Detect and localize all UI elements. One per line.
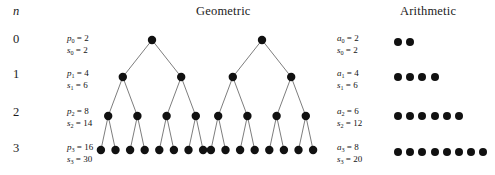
arithmetic-a-line-1: a1 = 4 [337, 68, 359, 80]
tree-node [133, 112, 141, 120]
tree-edge [233, 40, 262, 77]
tree-node [258, 36, 266, 44]
geometric-formula-row-1: p1 = 4 s1 = 6 [67, 68, 89, 91]
arithmetic-dot [394, 112, 402, 120]
arithmetic-a-line-3: a3 = 8 [337, 142, 362, 154]
tree-edge [167, 116, 174, 150]
tree-node [207, 146, 215, 154]
column-header-arithmetic: Arithmetic [400, 4, 456, 19]
column-header-geometric: Geometric [196, 4, 251, 19]
arithmetic-dot [455, 148, 463, 156]
tree-edge [218, 77, 233, 116]
tree-edge [108, 77, 123, 116]
tree-edge [299, 116, 306, 150]
tree-edge [306, 116, 313, 150]
tree-edge [159, 116, 166, 150]
tree-edge [196, 116, 203, 150]
arithmetic-dot [394, 38, 402, 46]
geometric-formula-row-2: p2 = 8 s2 = 14 [67, 106, 92, 129]
tree-edge [218, 116, 225, 150]
arithmetic-dot-row-2 [394, 112, 467, 120]
arithmetic-dot-row-0 [394, 38, 418, 46]
tree-node [126, 146, 134, 154]
tree-edge [167, 77, 182, 116]
tree-node [141, 146, 149, 154]
tree-edge [123, 40, 152, 77]
tree-edge [211, 116, 218, 150]
geometric-p-line-1: p1 = 4 [67, 68, 89, 80]
n-value-row-2: 2 [13, 105, 19, 120]
tree-node [192, 112, 200, 120]
arithmetic-dot [431, 112, 439, 120]
tree-node [309, 146, 317, 154]
arithmetic-dot [455, 112, 463, 120]
tree-node [97, 146, 105, 154]
tree-node [265, 146, 273, 154]
arithmetic-dot-row-3 [394, 148, 492, 156]
arithmetic-dot [394, 148, 402, 156]
arithmetic-dot [418, 112, 426, 120]
column-header-n: n [13, 4, 19, 19]
tree-edge [152, 40, 181, 77]
arithmetic-dot [406, 112, 414, 120]
arithmetic-dot [406, 38, 414, 46]
arithmetic-dot [431, 148, 439, 156]
geometric-p-line-2: p2 = 8 [67, 106, 92, 118]
arithmetic-dot [479, 148, 487, 156]
tree-edge [291, 77, 306, 116]
tree-node [302, 112, 310, 120]
tree-node [162, 112, 170, 120]
arithmetic-formula-row-2: a2 = 6 s2 = 12 [337, 106, 362, 129]
arithmetic-dot [394, 73, 402, 81]
tree-node [214, 112, 222, 120]
geometric-s-line-3: s3 = 30 [67, 154, 93, 166]
tree-node [104, 112, 112, 120]
tree-edge [108, 116, 115, 150]
arithmetic-dot [406, 73, 414, 81]
arithmetic-formula-row-0: a0 = 2 s0 = 2 [337, 33, 359, 56]
tree-edge [101, 116, 108, 150]
tree-node [251, 146, 259, 154]
arithmetic-dot [418, 148, 426, 156]
tree-node [170, 146, 178, 154]
tree-edge [262, 40, 291, 77]
tree-edge [123, 77, 138, 116]
tree-edge [181, 77, 196, 116]
arithmetic-dot [431, 73, 439, 81]
tree-edge [130, 116, 137, 150]
arithmetic-dot [467, 148, 475, 156]
tree-node [294, 146, 302, 154]
arithmetic-dot [443, 112, 451, 120]
tree-edge [137, 116, 144, 150]
arithmetic-formula-row-3: a3 = 8 s3 = 20 [337, 142, 362, 165]
tree-node [229, 73, 237, 81]
tree-edge [240, 116, 247, 150]
arithmetic-dot [443, 148, 451, 156]
arithmetic-dot-row-1 [394, 73, 443, 81]
arithmetic-s-line-1: s1 = 6 [337, 80, 359, 92]
tree-node [148, 36, 156, 44]
arithmetic-dot [406, 148, 414, 156]
tree-node [236, 146, 244, 154]
arithmetic-s-line-2: s2 = 12 [337, 118, 362, 130]
geometric-formula-row-0: p0 = 2 s0 = 2 [67, 33, 89, 56]
n-value-row-3: 3 [13, 141, 19, 156]
arithmetic-a-line-2: a2 = 6 [337, 106, 362, 118]
tree-node [272, 112, 280, 120]
arithmetic-formula-row-1: a1 = 4 s1 = 6 [337, 68, 359, 91]
tree-edge [189, 116, 196, 150]
tree-node [111, 146, 119, 154]
tree-edge [277, 77, 292, 116]
tree-node [280, 146, 288, 154]
n-value-row-1: 1 [13, 67, 19, 82]
tree-node [155, 146, 163, 154]
arithmetic-dot [418, 73, 426, 81]
tree-edge [277, 116, 284, 150]
tree-node [119, 73, 127, 81]
geometric-formula-row-3: p3 = 16 s3 = 30 [67, 142, 93, 165]
tree-node [221, 146, 229, 154]
tree-node [199, 146, 207, 154]
tree-node [184, 146, 192, 154]
geometric-s-line-2: s2 = 14 [67, 118, 92, 130]
arithmetic-s-line-0: s0 = 2 [337, 45, 359, 57]
